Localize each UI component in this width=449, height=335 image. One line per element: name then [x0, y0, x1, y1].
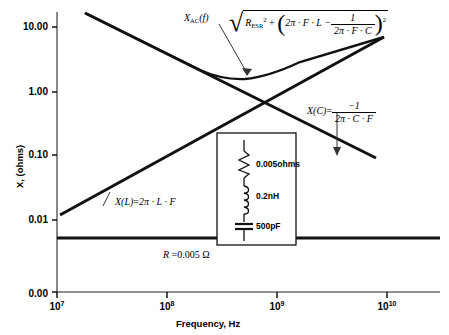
xac-plus-operator: +: [269, 17, 275, 28]
x-axis-ticks: [57, 292, 387, 298]
x-tick-base-1e8: 10: [159, 301, 170, 312]
right-paren-icon: ): [375, 15, 383, 32]
xc-frac-num: −1: [332, 100, 376, 112]
y-tick-label-0p01: 0.01: [6, 214, 48, 225]
xac-r-exp: 2: [263, 16, 266, 23]
xl-lhs-arg: (L): [121, 196, 133, 207]
xac-fn-arg: (f): [199, 12, 208, 23]
y-axis-title-text: X, (ohms): [14, 145, 25, 188]
xac-frac-num: 1: [331, 12, 375, 24]
x-tick-label-1e10: 1010: [367, 300, 407, 312]
x-tick-label-1e9: 109: [257, 300, 297, 312]
x-tick-base-1e10: 10: [378, 301, 389, 312]
inset-inductor-value: 0.2nH: [256, 191, 279, 201]
annotation-xc-equation: X(C)=−12π · C · F: [307, 100, 376, 124]
xc-fraction: −12π · C · F: [332, 100, 376, 124]
arrowhead-xac: [242, 68, 252, 76]
xac-r-sub: ESR: [251, 22, 263, 29]
radical-sign-icon: √: [229, 14, 243, 32]
y-tick-label-1: 1.00: [6, 86, 48, 97]
leader-xl-to-line: [103, 192, 110, 206]
radicand: RESR2 + (2π · F · L −12π · F · C)2: [243, 10, 388, 36]
x-tick-base-1e9: 10: [269, 301, 280, 312]
inset-resistor-value: 0.005ohms: [256, 159, 300, 169]
annotation-xac-label: XAC(f): [184, 12, 209, 24]
y-tick-label-10: 10.00: [6, 21, 48, 32]
annotation-xac-equation: √ RESR2 + (2π · F · L −12π · F · C)2: [229, 10, 388, 36]
y-tick-label-0p00: 0.00: [6, 288, 48, 299]
x-tick-label-1e7: 107: [37, 300, 77, 312]
x-tick-base-1e7: 10: [49, 301, 60, 312]
x-tick-exp-1e10: 10: [389, 300, 397, 307]
reactance-vs-frequency-chart: [0, 0, 449, 335]
annotation-xl-equation: X(L)=2π · L · F: [115, 196, 175, 207]
x-tick-exp-1e8: 8: [171, 300, 175, 307]
ohm-unit-icon: Ω: [202, 249, 209, 260]
left-paren-icon: (: [277, 15, 285, 32]
inset-capacitor-value: 500pF: [256, 221, 281, 231]
xc-frac-den: 2π · C · F: [332, 112, 376, 125]
arrowhead-xc: [333, 147, 341, 156]
xc-lhs-arg: (C): [313, 105, 326, 116]
xl-rhs: 2π · L · F: [139, 196, 176, 207]
sqrt-group: √ RESR2 + (2π · F · L −12π · F · C)2: [229, 10, 388, 36]
x-tick-exp-1e9: 9: [281, 300, 285, 307]
annotation-resistance-value: R =0.005 Ω: [163, 249, 210, 260]
x-tick-label-1e8: 108: [147, 300, 187, 312]
y-tick-label-0p10: 0.10: [6, 149, 48, 160]
x-tick-exp-1e7: 7: [61, 300, 65, 307]
x-axis-title: Frequency, Hz: [176, 318, 240, 329]
xac-fn-sub: AC: [190, 17, 199, 24]
xac-term-lead: 2π · F · L −: [285, 17, 331, 28]
xac-fraction: 12π · F · C: [331, 12, 375, 36]
r-value: 0.005: [177, 249, 200, 260]
x-axis-title-text: Frequency, Hz: [176, 318, 240, 329]
y-axis-title: X, (ohms): [14, 145, 25, 188]
xac-frac-den: 2π · F · C: [331, 24, 375, 37]
xac-paren-exp: 2: [383, 16, 386, 23]
r-symbol: R: [163, 249, 169, 260]
